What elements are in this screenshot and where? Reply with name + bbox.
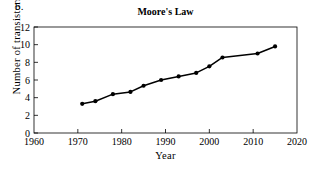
data-point-marker — [111, 92, 115, 96]
y-tick-label: 6 — [25, 75, 30, 86]
y-tick-label: 4 — [25, 92, 30, 103]
y-axis-ticks — [34, 27, 38, 133]
plot-frame — [34, 27, 297, 133]
data-point-marker — [220, 55, 224, 59]
y-tick-label: 10 — [20, 39, 30, 50]
x-tick-label: 1980 — [112, 136, 132, 147]
figure: b. Moore's Law Number of transistors Yea… — [0, 0, 311, 171]
data-point-marker — [194, 71, 198, 75]
plot-border — [34, 27, 297, 133]
data-point-marker — [128, 90, 132, 94]
x-tick-label: 1970 — [68, 136, 88, 147]
line-chart-plot: 024681012 1960197019801990200020102020 — [0, 0, 311, 171]
data-point-marker — [207, 64, 211, 68]
data-point-marker — [80, 102, 84, 106]
y-tick-label: 12 — [20, 22, 30, 33]
x-axis-ticks — [78, 129, 253, 133]
y-tick-label: 8 — [25, 57, 30, 68]
x-tick-label: 1990 — [156, 136, 176, 147]
x-tick-label: 2010 — [243, 136, 263, 147]
x-tick-label: 1960 — [24, 136, 44, 147]
data-point-markers — [80, 44, 277, 106]
data-point-marker — [273, 44, 277, 48]
x-tick-label: 2020 — [287, 136, 307, 147]
data-point-marker — [93, 99, 97, 103]
x-tick-label: 2000 — [199, 136, 219, 147]
data-point-marker — [159, 78, 163, 82]
data-point-marker — [255, 51, 259, 55]
y-axis-tick-labels: 024681012 — [20, 22, 30, 139]
y-tick-label: 2 — [25, 110, 30, 121]
data-point-marker — [177, 74, 181, 78]
x-axis-tick-labels: 1960197019801990200020102020 — [24, 136, 307, 147]
data-point-marker — [141, 84, 145, 88]
